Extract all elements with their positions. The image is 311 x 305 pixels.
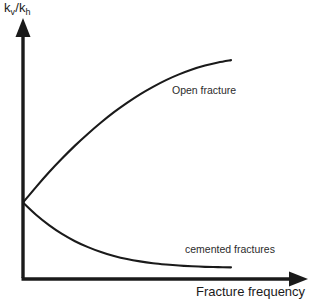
cemented-fractures-curve-label: cemented fractures	[185, 244, 275, 255]
chart-plot-area	[0, 0, 311, 305]
x-axis-label: Fracture frequency	[196, 285, 305, 298]
y-axis-label: kv/kh	[4, 1, 31, 17]
chart-figure: kv/kh Fracture frequency Open fracture c…	[0, 0, 311, 305]
cemented-fractures-curve	[23, 203, 231, 268]
open-fracture-curve	[23, 60, 231, 202]
y-axis-label-denominator-subscript: h	[25, 7, 30, 17]
y-axis	[16, 18, 31, 278]
open-fracture-curve-label: Open fracture	[172, 85, 236, 96]
